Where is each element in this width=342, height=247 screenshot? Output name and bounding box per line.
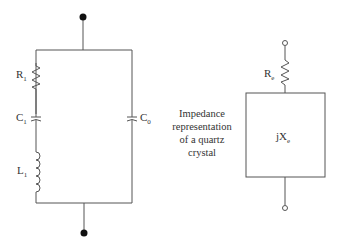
- label-c1: C1: [16, 111, 27, 128]
- caption: Impedance representation of a quartz cry…: [157, 107, 247, 159]
- caption-line: representation: [157, 120, 247, 133]
- label-re: Re: [264, 67, 274, 84]
- label-l1: L1: [17, 164, 27, 181]
- resistor-re: [281, 60, 289, 93]
- label-jxe: jXe: [276, 130, 290, 147]
- label-c0: C0: [140, 111, 151, 128]
- label-r1: R1: [16, 68, 27, 85]
- bottom-node: [81, 230, 88, 237]
- top-wire: [36, 50, 132, 117]
- top-terminal: [283, 41, 288, 46]
- top-node: [80, 14, 87, 21]
- caption-line: Impedance: [157, 107, 247, 120]
- caption-line: of a quartz: [157, 133, 247, 146]
- caption-line: crystal: [157, 146, 247, 159]
- bottom-terminal: [283, 206, 288, 211]
- inductor-l1: [36, 152, 40, 192]
